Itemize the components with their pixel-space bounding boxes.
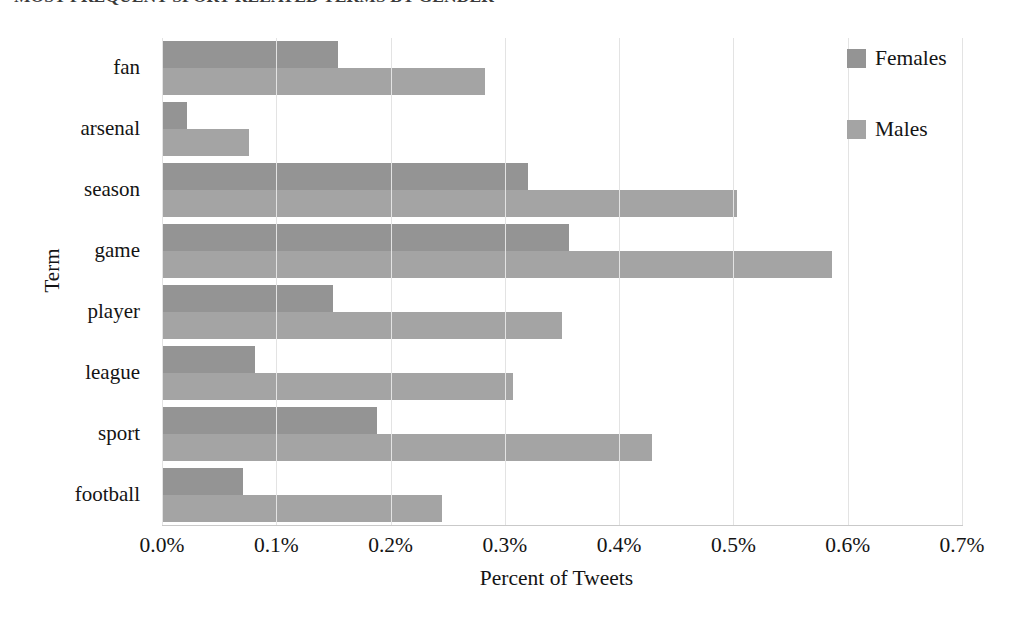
- legend-item-females[interactable]: Females: [847, 48, 947, 70]
- bar-males-season: [162, 190, 737, 217]
- x-axis-line: [162, 525, 963, 526]
- chart-title: MOST FREQUENT SPORT-RELATED TERMS BY GEN…: [14, 0, 714, 8]
- y-axis-title: Term: [40, 211, 65, 331]
- bar-males-sport: [162, 434, 652, 461]
- x-tick-label: 0.1%: [231, 533, 321, 558]
- legend-swatch-females: [847, 49, 866, 68]
- gridline-0.4%: [619, 38, 620, 525]
- x-tick-label: 0.3%: [460, 533, 550, 558]
- y-axis-label-player: player: [0, 299, 152, 324]
- bar-females-fan: [162, 41, 338, 68]
- gridline-0.1%: [276, 38, 277, 525]
- gridline-0.3%: [505, 38, 506, 525]
- x-tick-label: 0.0%: [117, 533, 207, 558]
- bar-males-player: [162, 312, 562, 339]
- gridline-0.7%: [962, 38, 963, 525]
- plot-area: [162, 38, 962, 525]
- x-tick-label: 0.4%: [574, 533, 664, 558]
- bar-females-arsenal: [162, 102, 187, 129]
- x-tick-label: 0.6%: [803, 533, 893, 558]
- bar-chart: MOST FREQUENT SPORT-RELATED TERMS BY GEN…: [0, 0, 1027, 629]
- legend-swatch-males: [847, 120, 866, 139]
- bar-females-season: [162, 163, 528, 190]
- bar-males-football: [162, 495, 442, 522]
- y-axis-label-arsenal: arsenal: [0, 116, 152, 141]
- y-axis-label-football: football: [0, 482, 152, 507]
- y-axis-label-league: league: [0, 360, 152, 385]
- bar-females-football: [162, 468, 243, 495]
- x-tick-label: 0.2%: [346, 533, 436, 558]
- y-axis-label-season: season: [0, 177, 152, 202]
- bar-females-league: [162, 346, 255, 373]
- gridline-0.0%: [162, 38, 163, 525]
- bar-males-arsenal: [162, 129, 249, 156]
- bar-females-game: [162, 224, 569, 251]
- x-tick-label: 0.5%: [688, 533, 778, 558]
- bar-females-player: [162, 285, 333, 312]
- bar-males-league: [162, 373, 513, 400]
- bar-males-fan: [162, 68, 485, 95]
- bar-males-game: [162, 251, 832, 278]
- legend-label-females: Females: [875, 48, 947, 70]
- x-tick-label: 0.7%: [917, 533, 1007, 558]
- gridline-0.5%: [733, 38, 734, 525]
- legend-label-males: Males: [875, 119, 928, 141]
- legend-item-males[interactable]: Males: [847, 119, 928, 141]
- bar-females-sport: [162, 407, 377, 434]
- y-axis-label-game: game: [0, 238, 152, 263]
- y-axis-label-sport: sport: [0, 421, 152, 446]
- x-axis-title-text: Percent of Tweets: [480, 566, 633, 591]
- x-axis-title: Percent of Tweets: [0, 566, 1027, 591]
- gridline-0.2%: [391, 38, 392, 525]
- gridline-0.6%: [848, 38, 849, 525]
- y-axis-label-fan: fan: [0, 55, 152, 80]
